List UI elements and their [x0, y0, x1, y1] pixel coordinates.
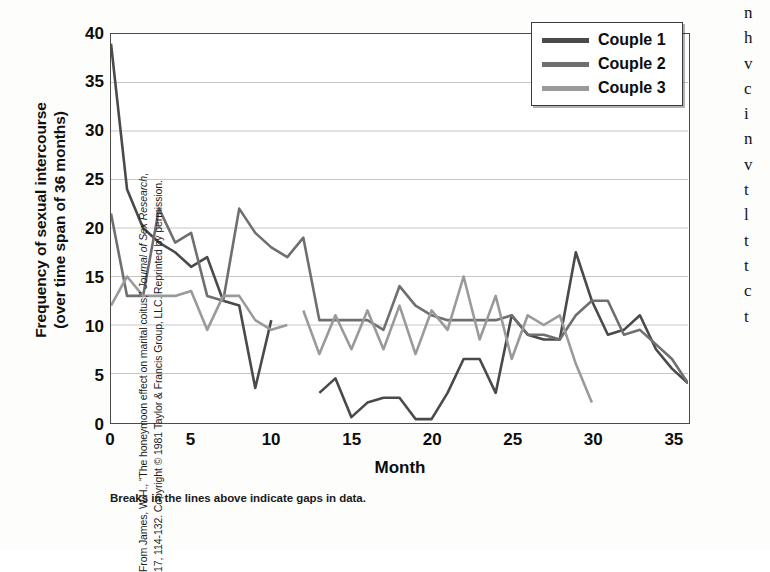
series-line-1-0: [111, 209, 688, 384]
series-line-2-0: [111, 277, 287, 330]
page-edge-text-line: c: [744, 278, 770, 303]
legend-item-couple-2[interactable]: Couple 2: [532, 52, 682, 76]
legend-swatch-icon: [542, 38, 589, 43]
page-edge-text-line: v: [744, 51, 770, 76]
x-tick-25: 25: [491, 430, 535, 450]
page-edge-text-line: i: [744, 101, 770, 126]
page-edge-text-line: c: [744, 76, 770, 101]
y-tick-20: 20: [58, 220, 104, 237]
legend-label: Couple 2: [598, 55, 666, 73]
chart-legend: Couple 1Couple 2Couple 3: [531, 22, 683, 106]
x-tick-0: 0: [88, 430, 132, 450]
y-axis-title-line-1: Frequency of sexual intercourse: [31, 50, 50, 390]
y-tick-10: 10: [58, 318, 104, 335]
x-tick-30: 30: [571, 430, 615, 450]
page-edge-text: nhvcinvtlttct: [744, 0, 770, 440]
page-edge-text-line: l: [744, 202, 770, 227]
legend-swatch-icon: [542, 86, 589, 91]
legend-item-couple-3[interactable]: Couple 3: [532, 76, 682, 100]
x-tick-35: 35: [652, 430, 696, 450]
x-tick-10: 10: [249, 430, 293, 450]
y-tick-25: 25: [58, 171, 104, 188]
series-line-0-0: [111, 44, 271, 388]
page-edge-text-line: v: [744, 152, 770, 177]
page-edge-text-line: n: [744, 126, 770, 151]
page-edge-text-line: t: [744, 253, 770, 278]
x-axis-tick-labels: 05101520253035: [0, 430, 770, 454]
legend-item-couple-1[interactable]: Couple 1: [532, 28, 682, 52]
figure-caption: Breaks in the lines above indicate gaps …: [110, 492, 366, 504]
series-line-0-1: [319, 252, 688, 419]
y-tick-30: 30: [58, 122, 104, 139]
y-tick-40: 40: [58, 25, 104, 42]
y-axis-tick-labels: 4035302520151050: [52, 0, 104, 440]
page-edge-text-line: t: [744, 228, 770, 253]
legend-label: Couple 3: [598, 79, 666, 97]
y-tick-15: 15: [58, 269, 104, 286]
page-edge-text-line: n: [744, 0, 770, 25]
y-tick-5: 5: [58, 367, 104, 384]
x-tick-5: 5: [169, 430, 213, 450]
page-edge-text-line: h: [744, 25, 770, 50]
page-edge-text-line: t: [744, 177, 770, 202]
y-tick-35: 35: [58, 73, 104, 90]
x-tick-20: 20: [410, 430, 454, 450]
x-axis-title: Month: [110, 458, 690, 478]
x-tick-15: 15: [330, 430, 374, 450]
page-edge-text-line: t: [744, 304, 770, 329]
legend-swatch-icon: [542, 62, 589, 67]
legend-label: Couple 1: [598, 31, 666, 49]
